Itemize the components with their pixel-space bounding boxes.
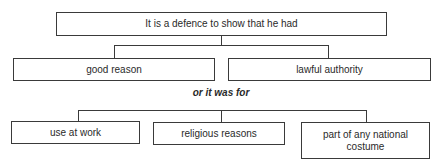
lawful-authority-label: lawful authority: [296, 64, 363, 76]
religious-reasons-label: religious reasons: [181, 128, 257, 140]
national-costume-label: part of any national costume: [316, 129, 415, 153]
connector-national-costume: [366, 110, 367, 122]
connector-use-at-work: [78, 110, 79, 121]
connector-good-reason: [114, 45, 115, 58]
religious-reasons-box: religious reasons: [153, 122, 285, 145]
use-at-work-box: use at work: [11, 121, 140, 144]
or-it-was-for-label: or it was for: [161, 87, 281, 98]
lawful-authority-box: lawful authority: [228, 58, 431, 81]
connector-level1-bar: [114, 45, 329, 46]
connector-level2-bar: [78, 110, 367, 111]
root-box: It is a defence to show that he had: [56, 12, 387, 36]
use-at-work-label: use at work: [50, 127, 101, 139]
good-reason-label: good reason: [86, 64, 142, 76]
connector-religious-reasons: [221, 110, 222, 122]
connector-lawful-authority: [328, 45, 329, 58]
national-costume-box: part of any national costume: [301, 122, 430, 159]
good-reason-box: good reason: [13, 58, 215, 81]
root-label: It is a defence to show that he had: [145, 18, 297, 30]
